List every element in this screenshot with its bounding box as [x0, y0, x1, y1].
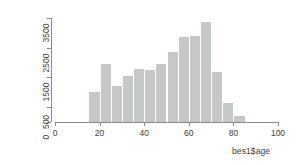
- histogram-bar: [144, 70, 155, 122]
- histogram-bar: [122, 76, 133, 122]
- y-axis-tick-label: 2500: [41, 48, 51, 78]
- x-axis-tick-label: 80: [221, 128, 245, 138]
- x-axis-tick-label: 60: [177, 128, 201, 138]
- histogram-bar: [167, 52, 178, 122]
- histogram-bar: [88, 92, 99, 122]
- x-axis-tick: [233, 122, 234, 126]
- histogram-bar: [111, 86, 122, 122]
- histogram-bar: [233, 116, 244, 122]
- histogram-bar: [200, 22, 211, 122]
- histogram-bar: [178, 37, 189, 122]
- x-axis-tick: [55, 122, 56, 126]
- y-axis-tick-label: 500: [41, 107, 51, 137]
- histogram-bar: [211, 72, 222, 122]
- histogram-bar: [222, 103, 233, 122]
- histogram-plot: frequency bes1$age 020406080100050015002…: [0, 0, 302, 165]
- histogram-bar: [189, 36, 200, 122]
- y-axis-tick-label: 3500: [41, 18, 51, 48]
- x-axis-tick-label: 40: [132, 128, 156, 138]
- y-axis-tick-label: 1500: [41, 77, 51, 107]
- x-axis-tick: [100, 122, 101, 126]
- histogram-bar: [100, 64, 111, 122]
- x-axis-tick: [278, 122, 279, 126]
- x-axis-tick: [144, 122, 145, 126]
- x-axis-tick: [189, 122, 190, 126]
- x-axis-tick-label: 20: [88, 128, 112, 138]
- x-axis-tick-label: 100: [266, 128, 290, 138]
- histogram-bar: [133, 69, 144, 122]
- histogram-bar: [155, 64, 166, 122]
